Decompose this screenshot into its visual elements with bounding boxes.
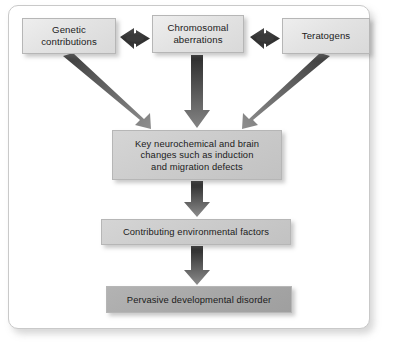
connector-environmental-factors-to-disorder [184,246,210,285]
node-key-neurochemical-changes[interactable]: Key neurochemical and brain changes such… [112,130,282,180]
node-contributing-environmental-factors[interactable]: Contributing environmental factors [101,219,291,245]
flow-diagram: Genetic contributions Chromosomal aberra… [0,0,397,347]
node-chromosomal-aberrations[interactable]: Chromosomal aberrations [152,15,244,53]
node-label: Chromosomal aberrations [168,22,229,45]
connector-teratogens-to-key-changes [242,53,330,129]
node-label: Teratogens [302,30,350,42]
connector-chromosomal-to-key-changes [184,55,210,128]
node-label: Key neurochemical and brain changes such… [135,138,259,172]
connector-genetic-to-key-changes [63,53,151,129]
node-genetic-contributions[interactable]: Genetic contributions [22,18,116,54]
connector-genetic-to-chromosomal [120,28,150,49]
node-pervasive-developmental-disorder[interactable]: Pervasive developmental disorder [106,286,292,313]
node-label: Pervasive developmental disorder [127,294,271,305]
connector-chromosomal-to-teratogens [250,28,280,49]
connector-key-changes-to-environmental-factors [184,181,210,217]
node-label: Contributing environmental factors [123,226,269,237]
node-teratogens[interactable]: Teratogens [282,18,370,54]
node-label: Genetic contributions [41,24,97,47]
